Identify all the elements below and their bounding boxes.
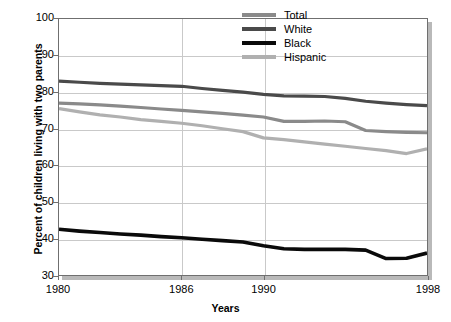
y-tick-mark [53,18,58,19]
x-tick-label: 1990 [251,283,275,295]
series-line-white [59,81,427,105]
x-tick-mark [428,276,429,280]
y-tick-label: 40 [24,233,54,244]
x-axis-title: Years [0,302,451,314]
y-axis-tick-labels: 30405060708090100 [22,0,54,322]
legend-swatch [242,41,276,45]
x-tick-mark [181,276,182,280]
y-tick-label: 60 [24,159,54,170]
y-tick-label: 30 [24,270,54,281]
y-tick-label: 70 [24,123,54,134]
legend-item-hispanic: Hispanic [242,50,326,64]
chart-legend: TotalWhiteBlackHispanic [238,6,330,67]
y-tick-mark [53,55,58,56]
x-tick-mark [58,276,59,280]
y-tick-mark [53,92,58,93]
legend-swatch [242,13,276,17]
legend-label: Total [284,10,307,21]
x-tick-label: 1980 [46,283,70,295]
y-tick-label: 90 [24,49,54,60]
x-axis-tick-labels: 1980198619901998 [0,283,451,299]
legend-item-black: Black [242,36,326,50]
x-tick-mark [264,276,265,280]
legend-label: Hispanic [284,52,326,63]
legend-item-total: Total [242,8,326,22]
y-tick-label: 50 [24,196,54,207]
legend-label: White [284,24,312,35]
legend-item-white: White [242,22,326,36]
chart-container: Percent of children living with two pare… [0,0,451,322]
x-tick-label: 1986 [169,283,193,295]
legend-swatch [242,55,276,59]
series-line-black [59,229,427,258]
legend-swatch [242,27,276,31]
y-tick-mark [53,239,58,240]
x-tick-label: 1998 [416,283,440,295]
y-tick-label: 80 [24,86,54,97]
y-tick-mark [53,202,58,203]
y-tick-mark [53,129,58,130]
y-tick-mark [53,165,58,166]
y-tick-label: 100 [24,12,54,23]
legend-label: Black [284,38,311,49]
